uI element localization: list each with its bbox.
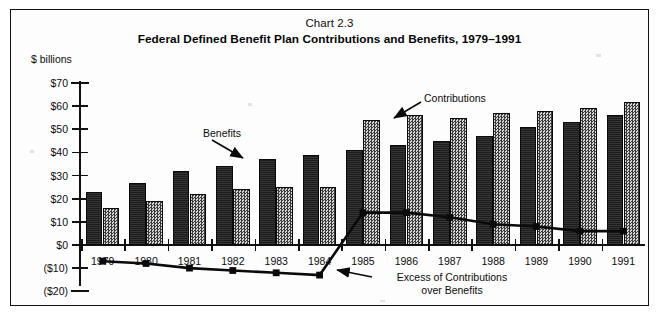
bar-contributions-1988 (493, 113, 510, 245)
callout-arrows (0, 0, 659, 315)
x-axis-tick (211, 239, 213, 251)
y-axis-tick (72, 175, 88, 177)
y-axis-tick-label: ($10) (20, 262, 68, 274)
y-axis-tick-label: $70 (20, 77, 68, 89)
x-axis-tick (602, 239, 604, 251)
y-axis-tick (72, 152, 88, 154)
bar-contributions-1979 (103, 208, 120, 245)
bar-contributions-1989 (537, 111, 554, 245)
x-axis-tick-label: 1989 (525, 255, 548, 267)
bar-benefits-1989 (520, 127, 537, 245)
excess-callout-arrow (337, 270, 372, 277)
x-axis-tick (81, 239, 83, 251)
contributions-callout-label: Contributions (424, 92, 486, 104)
x-axis-tick (255, 239, 257, 251)
bar-contributions-1980 (146, 201, 163, 245)
y-axis-tick (72, 105, 88, 107)
y-axis-tick-label: $60 (20, 100, 68, 112)
bar-contributions-1983 (276, 187, 293, 245)
excess-callout-label-line1: Excess of Contributions (397, 271, 507, 283)
y-axis-tick (72, 128, 88, 130)
bar-benefits-1983 (259, 159, 276, 245)
x-axis-tick (385, 239, 387, 251)
x-axis-tick-label: 1979 (91, 255, 114, 267)
bar-benefits-1981 (173, 171, 190, 245)
x-axis-tick (558, 239, 560, 251)
y-axis-tick-label: ($20) (20, 285, 68, 297)
bar-contributions-1986 (407, 115, 424, 245)
x-axis-tick (298, 239, 300, 251)
y-axis-tick-label: $20 (20, 193, 68, 205)
x-axis-tick (515, 239, 517, 251)
bar-benefits-1990 (563, 122, 580, 245)
y-axis-tick-label: $0 (20, 239, 68, 251)
bar-contributions-1991 (624, 102, 641, 245)
bar-contributions-1982 (233, 189, 250, 245)
x-axis-tick-label: 1990 (568, 255, 591, 267)
x-axis-tick-label: 1980 (134, 255, 157, 267)
bar-benefits-1986 (390, 145, 407, 245)
excess-callout-label: Excess of Contributions over Benefits (397, 271, 507, 297)
y-axis-tick-label: $40 (20, 146, 68, 158)
x-axis-tick (428, 239, 430, 251)
x-axis-tick-label: 1981 (178, 255, 201, 267)
bar-benefits-1979 (86, 192, 103, 245)
x-axis-tick-label: 1982 (221, 255, 244, 267)
benefits-callout-arrow (212, 140, 243, 158)
y-axis-tick (71, 290, 89, 292)
bar-contributions-1987 (450, 118, 467, 245)
bar-benefits-1991 (607, 115, 624, 245)
bar-benefits-1980 (129, 183, 146, 245)
x-axis-tick-label: 1991 (612, 255, 635, 267)
excess-line-series (0, 0, 659, 315)
x-axis-tick (471, 239, 473, 251)
bar-contributions-1981 (190, 194, 207, 245)
excess-callout-label-line2: over Benefits (421, 284, 482, 296)
benefits-callout-label: Benefits (203, 127, 241, 139)
excess-marker-1984 (316, 272, 323, 279)
y-axis-line (79, 81, 81, 286)
x-axis-tick-label: 1984 (308, 255, 331, 267)
bar-benefits-1987 (433, 141, 450, 245)
chart-figure: Chart 2.3 Federal Defined Benefit Plan C… (0, 0, 659, 315)
y-axis-tick-label: $50 (20, 123, 68, 135)
bar-contributions-1990 (580, 108, 597, 245)
y-axis-tick-labels: $70$60$50$40$30$20$10$0($10)($20) (18, 0, 68, 315)
y-axis-tick (72, 267, 88, 269)
x-axis-tick (341, 239, 343, 251)
excess-marker-1982 (229, 267, 236, 274)
x-axis-tick (124, 239, 126, 251)
plot-area: $70$60$50$40$30$20$10$0($10)($20) 197919… (0, 0, 659, 315)
x-axis-tick-label: 1987 (438, 255, 461, 267)
y-axis-tick-label: $10 (20, 216, 68, 228)
x-axis-tick-label: 1983 (265, 255, 288, 267)
y-axis-tick (71, 82, 89, 84)
bar-benefits-1984 (303, 155, 320, 245)
x-axis-tick (168, 239, 170, 251)
excess-marker-1983 (273, 269, 280, 276)
bar-benefits-1985 (346, 150, 363, 245)
bar-benefits-1988 (476, 136, 493, 245)
x-axis-tick-label: 1985 (351, 255, 374, 267)
bar-contributions-1984 (320, 187, 337, 245)
y-axis-tick-label: $30 (20, 170, 68, 182)
bar-contributions-1985 (363, 120, 380, 245)
bar-benefits-1982 (216, 166, 233, 245)
x-axis-tick-label: 1986 (395, 255, 418, 267)
x-axis-tick-label: 1988 (481, 255, 504, 267)
